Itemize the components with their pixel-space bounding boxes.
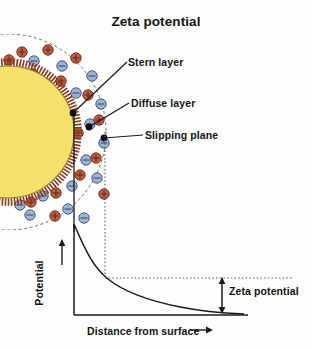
y-axis-label: Potential (33, 238, 45, 328)
callout-label-diffuse-layer: Diffuse layer (131, 97, 195, 109)
guide-lines (105, 132, 292, 278)
zeta-potential-annotation: Zeta potential (229, 285, 299, 297)
callout-label-slipping-plane: Slipping plane (145, 129, 218, 141)
x-axis-label: Distance from surface (87, 325, 199, 337)
potential-curve (74, 224, 244, 314)
figure-title: Zeta potential (0, 14, 312, 29)
zeta-potential-arrow (219, 277, 226, 314)
zeta-potential-figure: Zeta potential Stern layer Diffuse layer… (0, 0, 312, 348)
y-axis-arrow (59, 239, 66, 265)
callout-label-stern-layer: Stern layer (128, 56, 183, 68)
